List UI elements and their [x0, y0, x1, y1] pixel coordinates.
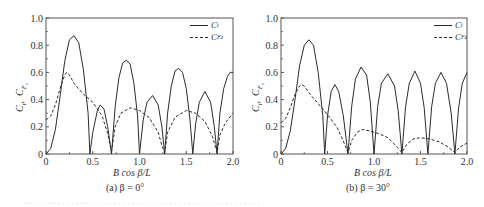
y-tick-label: 0.6 [266, 67, 279, 78]
x-tick-label: 1.5 [180, 156, 193, 167]
dashed-line-swatch [190, 37, 208, 38]
solid-line-swatch [190, 25, 208, 26]
cfz-line [281, 85, 467, 153]
x-tick-label: 0.5 [321, 156, 334, 167]
y-axis-title-a: Ct, CFz [14, 83, 29, 112]
legend-item-ct: Ct [434, 19, 467, 31]
dashed-line-swatch [434, 37, 452, 38]
cfz-line [46, 72, 233, 152]
x-tick-label: 2.0 [227, 156, 240, 167]
chart-panel-a: 00.20.40.60.81.000.51.01.52.0 Ct, CFz B … [0, 0, 242, 207]
legend-b: Ct CFz [434, 19, 467, 43]
y-tick-label: 1.0 [31, 13, 44, 24]
ct-line [46, 36, 233, 154]
x-tick-label: 1.0 [133, 156, 146, 167]
x-tick-label: 2.0 [461, 156, 474, 167]
legend-item-cfz: CFz [434, 31, 467, 43]
figure-footer-caption: · · · · · · · · · · · · · · · · · · · · … [20, 199, 464, 207]
y-tick-label: 0 [273, 149, 278, 160]
x-axis-title-b: B cos β/L [354, 167, 392, 178]
x-tick-label: 1.5 [414, 156, 427, 167]
y-tick-label: 0.4 [31, 94, 44, 105]
chart-panel-b: 00.20.40.60.81.000.51.01.52.0 Ct, CFz B … [242, 0, 484, 207]
y-tick-label: 0.4 [266, 94, 279, 105]
x-axis-title-a: B cos β/L [113, 167, 151, 178]
ct-line [281, 40, 467, 154]
x-tick-label: 1.0 [368, 156, 381, 167]
y-axis-title-b: Ct, CFz [250, 83, 265, 112]
legend-item-cfz: CFz [190, 31, 223, 43]
y-tick-label: 0.2 [31, 121, 44, 132]
y-tick-label: 0.8 [31, 40, 44, 51]
solid-line-swatch [434, 25, 452, 26]
legend-a: Ct CFz [190, 19, 223, 43]
y-tick-label: 0.6 [31, 67, 44, 78]
y-tick-label: 1.0 [266, 13, 279, 24]
y-tick-label: 0.2 [266, 121, 279, 132]
y-tick-label: 0 [38, 149, 43, 160]
x-tick-label: 0.5 [87, 156, 100, 167]
y-tick-label: 0.8 [266, 40, 279, 51]
caption-b: (b) β = 30° [346, 182, 390, 193]
legend-item-ct: Ct [190, 19, 223, 31]
caption-a: (a) β = 0° [106, 182, 144, 193]
x-tick-label: 0 [44, 156, 49, 167]
x-tick-label: 0 [279, 156, 284, 167]
